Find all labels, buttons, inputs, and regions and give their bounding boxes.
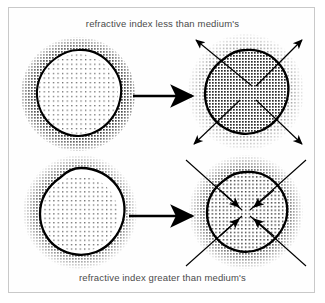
refractive-index-figure: refractive index less than medium's xyxy=(0,0,325,303)
bottom-left-particle xyxy=(18,156,146,274)
caption-top: refractive index less than medium's xyxy=(0,18,325,29)
top-left-particle xyxy=(16,36,144,154)
transition-arrow-top xyxy=(132,84,204,108)
caption-bottom: refractive index greater than medium's xyxy=(0,272,325,283)
transition-arrow-bottom xyxy=(128,204,204,228)
